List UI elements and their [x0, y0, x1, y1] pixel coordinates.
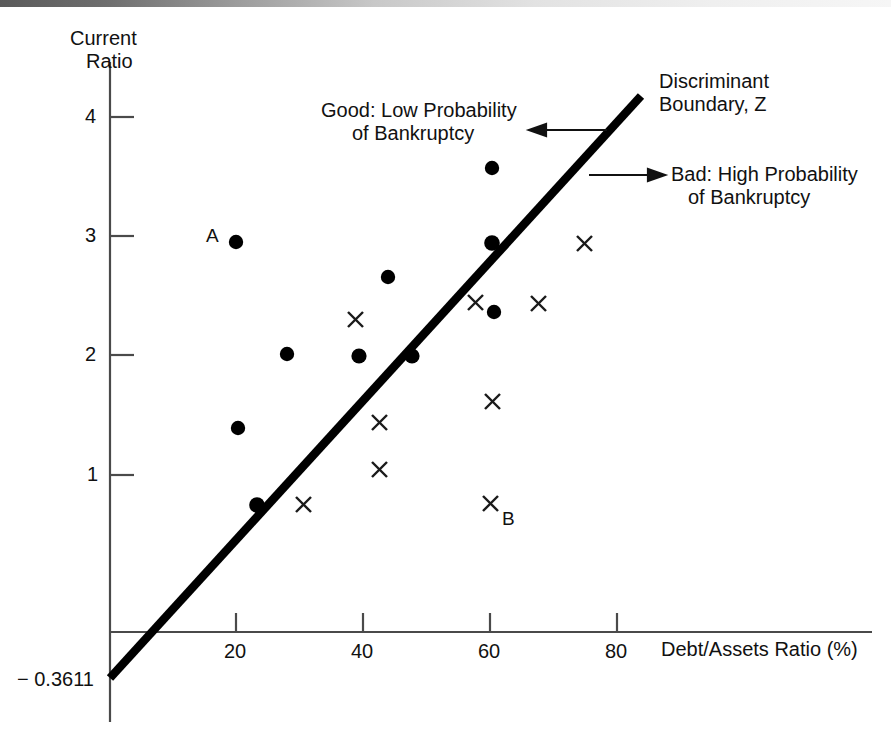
bad-series-markers [296, 236, 592, 512]
y-tick-label-4: 4 [85, 105, 96, 129]
annotation-arrows [529, 124, 665, 181]
data-point-label-b: B [502, 508, 515, 530]
x-tick-label-60: 60 [478, 640, 500, 664]
y-tick-marks [110, 117, 134, 475]
good-series-markers [229, 161, 501, 513]
data-point-x [296, 497, 311, 512]
bad-region-annotation-line2: of Bankruptcy [688, 186, 810, 210]
bad-region-annotation-line1: Bad: High Probability [671, 163, 858, 187]
y-tick-label-1: 1 [87, 463, 98, 487]
good-region-annotation-line2: of Bankruptcy [352, 122, 474, 146]
bad-arrow-head [648, 169, 665, 181]
data-point-dot [487, 305, 501, 319]
discriminant-scatter-chart: Current Ratio 4 3 2 1 20 40 60 80 Debt/A… [0, 0, 891, 739]
data-point-x [372, 415, 387, 430]
data-point-dot [231, 421, 245, 435]
data-point-dot [404, 348, 419, 363]
data-point-dot [280, 347, 294, 361]
good-region-annotation-line1: Good: Low Probability [321, 99, 517, 123]
data-point-x [372, 462, 387, 477]
data-point-x [485, 394, 500, 409]
x-tick-label-20: 20 [224, 640, 246, 664]
y-intercept-label: − 0.3611 [17, 668, 94, 692]
data-point-dot [229, 235, 243, 249]
data-point-dot [381, 270, 395, 284]
y-axis-title-line2: Ratio [86, 50, 133, 74]
data-point-dot [485, 161, 499, 175]
x-axis-title: Debt/Assets Ratio (%) [661, 638, 858, 662]
data-point-label-a: A [206, 225, 219, 247]
y-tick-label-3: 3 [85, 224, 96, 248]
discriminant-boundary-line [110, 96, 641, 678]
x-tick-marks [236, 613, 617, 632]
data-point-x [531, 296, 546, 311]
boundary-callout-line1: Discriminant [659, 70, 769, 94]
data-point-dot [484, 235, 500, 251]
data-point-dot [351, 348, 366, 363]
y-tick-label-2: 2 [85, 343, 96, 367]
x-tick-label-80: 80 [605, 640, 627, 664]
y-axis-title-line1: Current [70, 27, 137, 51]
data-point-x [483, 496, 498, 511]
boundary-callout-line2: Boundary, Z [659, 93, 766, 117]
data-point-x [468, 295, 483, 310]
data-point-dot [249, 497, 265, 513]
data-point-x [577, 236, 592, 251]
data-point-x [348, 312, 363, 327]
x-tick-label-40: 40 [351, 640, 373, 664]
good-arrow-head [529, 124, 546, 136]
